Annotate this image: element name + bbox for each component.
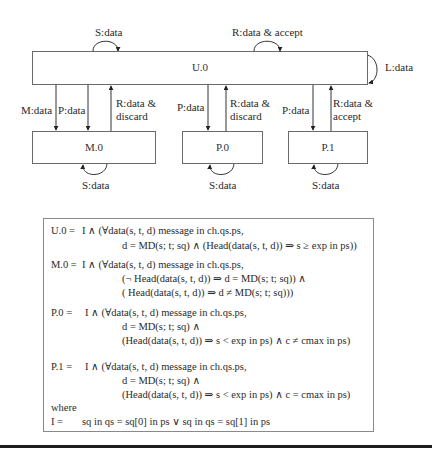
label-p1-self-s: S:data (312, 179, 340, 192)
formula-p1-lhs: P.1 = (51, 361, 72, 373)
formula-u0-line1: I ∧ (∀data(s, t, d) message in ch.qs.ps, (82, 225, 244, 237)
formula-p0-lhs: P.0 = (51, 307, 72, 319)
formula-m0-line2: (¬ Head(data(s, t, d)) ⇒ d = MD(s; t; sq… (122, 273, 306, 285)
label-u0-p0-pdata: P:data (177, 101, 205, 114)
label-p1-u0-r-line2: accept (333, 110, 361, 123)
formula-u0-lhs: U.0 = (51, 225, 75, 237)
formula-invariant-lhs: I = (51, 416, 63, 428)
label-u0-self-l: L:data (385, 61, 413, 74)
m0-self-loop-s (83, 163, 107, 175)
label-p0-u0-r-line1: R:data & (230, 97, 270, 110)
formula-m0-line1: I ∧ (∀data(s, t, d) message in ch.qs.ps, (82, 259, 244, 271)
label-p0-self-s: S:data (209, 179, 237, 192)
p1-self-loop-s (314, 163, 338, 175)
label-p1-u0-r-line1: R:data & (333, 97, 373, 110)
formula-m0-lhs: M.0 = (51, 259, 77, 271)
u0-self-loop-r (254, 41, 280, 51)
formula-p0-line2: d = MD(s; t; sq) ∧ (122, 321, 200, 333)
formula-where: where (51, 402, 77, 414)
formula-p1-line1: I ∧ (∀data(s, t, d) message in ch.qs.ps, (85, 361, 247, 373)
label-u0-m0-mdata: M:data (21, 104, 52, 117)
formula-p0-line1: I ∧ (∀data(s, t, d) message in ch.qs.ps, (85, 307, 247, 319)
label-m0-u0-r-line1: R:data & (116, 97, 156, 110)
label-u0-self-s: S:data (95, 26, 123, 39)
label-u0-p1-pdata: P:data (282, 104, 310, 117)
u0-self-loop-l (367, 55, 377, 83)
u0-self-loop-s (93, 41, 118, 51)
formula-u0-line2: d = MD(s; t; sq) ∧ (Head(data(s, t, d)) … (122, 240, 357, 252)
formula-m0-line3: ( Head(data(s, t, d)) ⇒ d ≠ MD(s; t; sq)… (122, 287, 293, 299)
label-p0-u0-r-line2: discard (230, 110, 262, 123)
label-u0-self-r: R:data & accept (232, 26, 303, 39)
label-u0-m0-pdata: P:data (58, 104, 86, 117)
state-m0-label: M.0 (32, 141, 156, 153)
p0-self-loop-s (210, 163, 234, 175)
formula-p0-line3: (Head(data(s, t, d)) ⇒ s < exp in ps) ∧ … (122, 335, 350, 347)
formula-p1-line2: d = MD(s; t; sq) ∧ (122, 375, 200, 387)
state-p1-label: P.1 (288, 141, 368, 153)
bottom-rule (0, 445, 432, 448)
label-m0-u0-r-line2: discard (116, 110, 148, 123)
label-m0-self-s: S:data (82, 179, 110, 192)
formula-invariant-rhs: sq in qs = sq[0] in ps ∨ sq in qs = sq[1… (82, 416, 270, 428)
state-p0-label: P.0 (182, 141, 263, 153)
formula-p1-line3: (Head(data(s, t, d)) ⇒ s < exp in ps) ∧ … (122, 389, 350, 401)
state-u0-label: U.0 (32, 61, 368, 73)
